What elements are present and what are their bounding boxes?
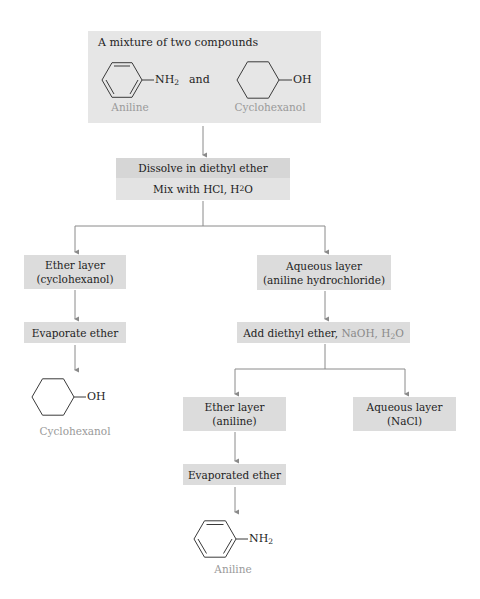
connector-and: and [189,73,210,86]
benzene-ring-icon [102,63,154,98]
step-dissolve-line1: Dissolve in diethyl ether [116,158,290,178]
aniline-amine-group: NH2 [249,532,273,545]
cyclohexanol-label: Cyclohexanol [230,101,310,113]
aqueous-layer-aniline-hydrochloride-box: Aqueous layer (aniline hydrochloride) [257,255,391,290]
cyclohexanol-hydroxyl-group: OH [87,390,106,403]
cyclohexane-ring-icon [237,62,292,98]
benzene-ring-icon [194,521,248,557]
step-dissolve-box: Dissolve in diethyl ether Mix with HCl, … [116,158,290,200]
aniline-label: Aniline [100,101,160,113]
cyclohexane-ring-icon [32,379,86,415]
ether-layer-aniline-box: Ether layer (aniline) [183,397,286,431]
evaporate-ether-box: Evaporate ether [24,322,126,343]
aniline-amine-group: NH2 [155,73,179,86]
molecule-structures [0,0,480,599]
aqueous-layer-nacl-box: Aqueous layer (NaCl) [353,397,456,431]
cyclohexanol-hydroxyl-group: OH [293,73,312,86]
cyclohexanol-product-label: Cyclohexanol [35,425,115,437]
add-diethyl-ether-box: Add diethyl ether, NaOH, H2O [237,322,410,343]
aniline-product-label: Aniline [203,563,263,575]
ether-layer-cyclohexanol-box: Ether layer (cyclohexanol) [24,255,126,289]
evaporated-ether-box: Evaporated ether [183,464,286,485]
step-mix-line2: Mix with HCl, H2O [116,178,290,200]
